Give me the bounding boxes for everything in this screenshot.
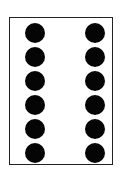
- dot-6: [85, 71, 105, 91]
- dot-7: [25, 95, 45, 115]
- dot-1: [25, 23, 45, 43]
- dot-8: [85, 95, 105, 115]
- dot-11: [25, 143, 45, 163]
- dot-card: [9, 17, 113, 165]
- dot-10: [85, 119, 105, 139]
- dot-9: [25, 119, 45, 139]
- dot-4: [85, 47, 105, 67]
- dot-2: [85, 23, 105, 43]
- dot-5: [25, 71, 45, 91]
- dot-3: [25, 47, 45, 67]
- dot-12: [85, 143, 105, 163]
